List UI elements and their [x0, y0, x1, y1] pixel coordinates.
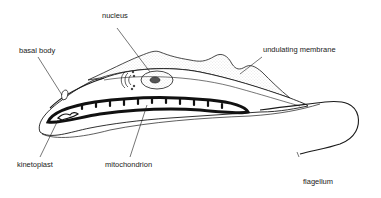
label-undulating-membrane: undulating membrane	[263, 45, 336, 54]
label-basal-body: basal body	[19, 46, 55, 55]
nucleolus-shape	[150, 77, 160, 83]
trypanosome-diagram	[0, 0, 381, 198]
label-flagellum: flagellum	[303, 177, 333, 186]
label-kinetoplast: kinetoplast	[17, 160, 53, 169]
label-nucleus: nucleus	[102, 11, 128, 20]
label-mitochondrion: mitochondrion	[105, 160, 152, 169]
